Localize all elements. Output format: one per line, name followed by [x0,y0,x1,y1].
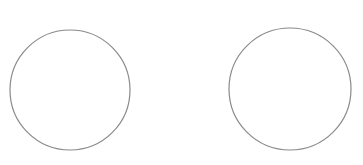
right-circle [229,28,351,150]
diagram-canvas [0,0,363,165]
left-circle [10,30,130,150]
